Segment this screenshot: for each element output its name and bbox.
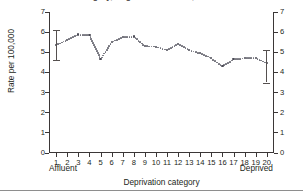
y-tick-label-r-6: 6	[280, 28, 290, 36]
data-point	[244, 57, 246, 59]
y-tick-label-r-0: 0	[280, 149, 290, 157]
x-tick-20	[267, 153, 268, 157]
y-tick-l-5	[45, 52, 49, 53]
line-dot	[107, 47, 109, 49]
line-dot	[106, 49, 108, 51]
x-tick-14	[200, 153, 201, 157]
axis-end-label-affluent: Affluent	[49, 163, 77, 173]
y-tick-r-5	[274, 52, 278, 53]
line-dot	[157, 47, 159, 49]
data-point	[122, 36, 124, 38]
x-tick-9	[145, 153, 146, 157]
y-tick-r-2	[274, 112, 278, 113]
y-tick-label-r-3: 3	[280, 89, 290, 97]
chart-figure: category, England and Wales, 1997-99 Rat…	[0, 0, 303, 193]
x-tick-2	[67, 153, 68, 157]
footer-divider	[0, 190, 303, 191]
y-tick-r-7	[274, 12, 278, 13]
error-bar-20	[266, 50, 267, 82]
y-tick-label-l-6: 6	[35, 28, 45, 36]
x-tick-17	[234, 153, 235, 157]
data-point	[144, 45, 146, 47]
y-tick-l-7	[45, 12, 49, 13]
y-tick-label-l-0: 0	[35, 149, 45, 157]
x-tick-16	[222, 153, 223, 157]
line-dot	[229, 61, 231, 63]
x-axis-label: Deprivation category	[49, 177, 274, 187]
y-tick-l-0	[45, 153, 49, 154]
data-point	[188, 49, 190, 51]
data-point	[232, 58, 234, 60]
x-tick-8	[134, 153, 135, 157]
y-tick-label-r-2: 2	[280, 109, 290, 117]
x-tick-1	[56, 153, 57, 157]
axis-end-label-deprived: Deprived	[240, 163, 273, 173]
line-dot	[129, 36, 131, 38]
error-bar-cap-20-lower	[263, 83, 270, 84]
y-tick-r-0	[274, 153, 278, 154]
y-tick-l-2	[45, 112, 49, 113]
x-tick-15	[211, 153, 212, 157]
y-tick-r-6	[274, 32, 278, 33]
error-bar-1	[56, 30, 57, 60]
data-point	[255, 57, 257, 59]
y-tick-label-l-2: 2	[35, 109, 45, 117]
bottom-axis-line	[49, 152, 274, 153]
error-bar-cap-1-upper	[53, 30, 60, 31]
y-tick-l-4	[45, 72, 49, 73]
plot-area: 0011223344556677 12345678910111213141516…	[49, 12, 274, 153]
line-dot	[105, 51, 107, 53]
y-tick-label-r-1: 1	[280, 129, 290, 137]
chart-title: category, England and Wales, 1997-99	[0, 0, 303, 1]
x-tick-12	[178, 153, 179, 157]
y-tick-l-6	[45, 32, 49, 33]
line-dot	[250, 57, 252, 59]
x-tick-3	[78, 153, 79, 157]
y-tick-label-r-7: 7	[280, 8, 290, 16]
line-dot	[191, 50, 193, 52]
error-bar-cap-1-lower	[53, 60, 60, 61]
x-tick-18	[245, 153, 246, 157]
y-tick-label-l-1: 1	[35, 129, 45, 137]
error-bar-cap-20-upper	[263, 50, 270, 51]
x-tick-4	[89, 153, 90, 157]
data-point	[111, 41, 113, 43]
x-tick-13	[189, 153, 190, 157]
y-tick-label-l-5: 5	[35, 48, 45, 56]
y-tick-r-1	[274, 132, 278, 133]
y-tick-l-1	[45, 132, 49, 133]
y-tick-r-3	[274, 92, 278, 93]
data-point	[133, 35, 135, 37]
data-point	[99, 58, 101, 60]
x-tick-19	[256, 153, 257, 157]
line-dot	[148, 46, 150, 48]
data-point	[166, 49, 168, 51]
data-point	[221, 65, 223, 67]
x-tick-5	[101, 153, 102, 157]
y-tick-l-3	[45, 92, 49, 93]
y-tick-label-r-5: 5	[280, 48, 290, 56]
x-tick-6	[112, 153, 113, 157]
line-dot	[110, 43, 112, 45]
data-point	[88, 34, 90, 36]
y-tick-r-4	[274, 72, 278, 73]
x-tick-11	[167, 153, 168, 157]
line-dot	[108, 45, 110, 47]
left-axis-line	[49, 12, 50, 153]
y-tick-label-l-7: 7	[35, 8, 45, 16]
line-dot	[239, 58, 241, 60]
y-tick-label-l-3: 3	[35, 89, 45, 97]
line-dot	[160, 47, 162, 49]
x-tick-10	[156, 153, 157, 157]
y-axis-label: Rate per 100,000	[6, 0, 16, 126]
line-dot	[242, 58, 244, 60]
y-tick-label-l-4: 4	[35, 68, 45, 76]
line-dot	[126, 36, 128, 38]
data-point	[155, 46, 157, 48]
y-tick-label-r-4: 4	[280, 68, 290, 76]
x-tick-7	[123, 153, 124, 157]
